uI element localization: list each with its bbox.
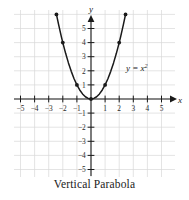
- equation-exponent: 2: [145, 62, 148, 69]
- y-tick-label: −1: [78, 109, 86, 118]
- data-point: [103, 83, 107, 87]
- y-tick-label: 5: [82, 24, 86, 33]
- y-tick-label: −2: [78, 123, 86, 132]
- data-point: [75, 83, 79, 87]
- figure-caption: Vertical Parabola: [0, 178, 189, 190]
- data-point: [89, 97, 93, 101]
- y-axis-arrowhead: [88, 15, 95, 22]
- grid-lines: [14, 10, 175, 177]
- x-tick-label: 1: [103, 104, 107, 113]
- x-tick-label: 3: [131, 104, 135, 113]
- x-tick-label: 5: [160, 104, 164, 113]
- x-tick-label: −4: [31, 104, 39, 113]
- y-tick-label: −5: [78, 165, 86, 174]
- x-tick-label: −3: [45, 104, 53, 113]
- x-tick-label: 4: [146, 104, 150, 113]
- equation-base: y = x: [125, 63, 145, 73]
- x-tick-label: 2: [117, 104, 121, 113]
- graph-svg: −5−4−3−2−112345 54321−1−2−3−4−5 x y y = …: [0, 0, 189, 178]
- parabola-figure: −5−4−3−2−112345 54321−1−2−3−4−5 x y y = …: [0, 0, 189, 200]
- coordinate-plane: −5−4−3−2−112345 54321−1−2−3−4−5 x y y = …: [0, 0, 189, 178]
- y-tick-label: 3: [82, 52, 86, 61]
- x-tick-labels: −5−4−3−2−112345: [17, 104, 164, 113]
- y-tick-label: −3: [78, 137, 86, 146]
- axes: [14, 15, 177, 176]
- data-point: [55, 13, 59, 17]
- y-axis-label: y: [88, 4, 93, 14]
- x-axis-arrowhead: [170, 96, 177, 103]
- equation-annotation: y = x2: [125, 62, 148, 73]
- y-tick-label: −4: [78, 151, 86, 160]
- x-tick-label: −5: [17, 104, 25, 113]
- y-tick-label: 2: [82, 67, 86, 76]
- y-tick-label: 4: [82, 38, 86, 47]
- data-point: [61, 41, 65, 45]
- x-axis-label: x: [177, 95, 182, 105]
- y-tick-label: 1: [82, 81, 86, 90]
- data-point: [117, 41, 121, 45]
- data-point: [124, 13, 128, 17]
- x-tick-label: −2: [59, 104, 67, 113]
